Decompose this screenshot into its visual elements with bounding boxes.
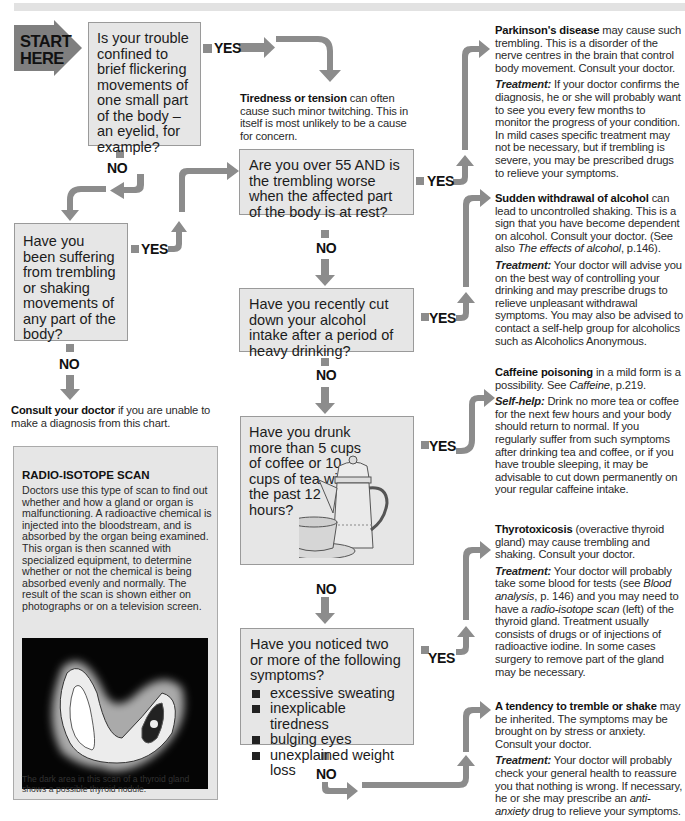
- outcome-tiredness: Tiredness or tension can often cause suc…: [240, 92, 418, 146]
- question-box-thyroid-symptoms: Have you noticed two or more of the foll…: [240, 628, 414, 745]
- outcome-parkinsons: Parkinson's disease may cause such tremb…: [495, 24, 683, 183]
- panel-title: RADIO-ISOTOPE SCAN: [22, 469, 150, 481]
- outcome-caffeine-poisoning: Caffeine poisoning in a mild form is a p…: [495, 366, 683, 500]
- symptom-item: inexplicable tiredness: [250, 701, 404, 732]
- symptom-item: excessive sweating: [250, 686, 404, 702]
- question-text: Have you noticed two or more of the foll…: [250, 637, 404, 684]
- coffee-pot-illustration: [299, 448, 409, 558]
- no-label: NO: [316, 766, 336, 782]
- yes-label: YES: [141, 241, 168, 257]
- symptom-item: bulging eyes: [250, 732, 404, 748]
- reference-link[interactable]: radio-isotope scan: [531, 603, 620, 615]
- no-label: NO: [316, 581, 336, 597]
- no-label: NO: [59, 356, 79, 372]
- outcome-alcohol-withdrawal: Sudden withdrawal of alcohol can lead to…: [495, 192, 683, 351]
- yes-label: YES: [429, 438, 456, 454]
- question-text: Are you over 55 AND is the trembling wor…: [249, 157, 400, 220]
- no-label: NO: [107, 160, 127, 176]
- question-text: Have you been suffering from trembling o…: [23, 233, 116, 342]
- start-here-label: START HERE: [20, 33, 71, 67]
- question-box-trembling: Have you been suffering from trembling o…: [14, 223, 128, 341]
- yes-marker: [203, 44, 212, 53]
- radio-isotope-scan-panel: RADIO-ISOTOPE SCAN Doctors use this type…: [13, 446, 218, 800]
- reference-link[interactable]: The effects of alcohol: [518, 242, 621, 254]
- panel-body: Doctors use this type of scan to find ou…: [22, 485, 214, 613]
- no-label: NO: [316, 240, 336, 256]
- no-label: NO: [316, 367, 336, 383]
- outcome-thyrotoxicosis: Thyrotoxicosis (overactive thyroid gland…: [495, 523, 683, 682]
- yes-label: YES: [214, 40, 241, 56]
- question-box-caffeine: Have you drunk more than 5 cups of coffe…: [240, 416, 414, 565]
- question-box-alcohol: Have you recently cut down your alcohol …: [239, 288, 414, 352]
- question-box-confined-movements: Is your trouble confined to brief flicke…: [88, 22, 201, 146]
- yes-label: YES: [428, 650, 455, 666]
- yes-label: YES: [427, 173, 454, 189]
- outcome-tendency-tremble: A tendency to tremble or shake may be in…: [495, 700, 683, 821]
- yes-label: YES: [429, 310, 456, 326]
- question-box-over-55: Are you over 55 AND is the trembling wor…: [239, 149, 414, 215]
- symptom-list: excessive sweating inexplicable tirednes…: [250, 686, 404, 779]
- outcome-consult-doctor: Consult your doctor if you are unable to…: [11, 404, 226, 433]
- question-text: Have you recently cut down your alcohol …: [249, 296, 393, 359]
- scan-caption: The dark area in this scan of a thyroid …: [22, 774, 212, 794]
- thyroid-scan-image: [22, 638, 208, 789]
- reference-link[interactable]: Caffeine: [569, 379, 609, 391]
- question-text: Is your trouble confined to brief flicke…: [97, 30, 189, 155]
